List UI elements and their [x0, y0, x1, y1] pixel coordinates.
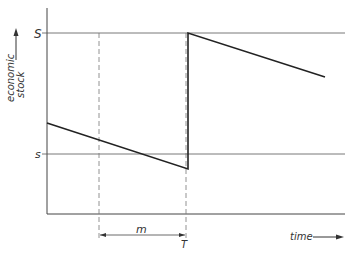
upper-level-label: S — [34, 27, 42, 41]
inventory-diagram: S s m T time economic stock — [0, 0, 354, 256]
arrow-head-right — [179, 233, 185, 237]
y-label-arrow-head — [14, 28, 19, 36]
arrow-head-left — [100, 233, 106, 237]
time-arrow-head — [336, 235, 344, 240]
lower-level-label: s — [35, 148, 41, 161]
x-axis-label: time — [290, 231, 313, 242]
interval-label: m — [136, 223, 147, 236]
y-axis-label-line2: stock — [15, 70, 26, 98]
reorder-time-label: T — [181, 239, 188, 250]
